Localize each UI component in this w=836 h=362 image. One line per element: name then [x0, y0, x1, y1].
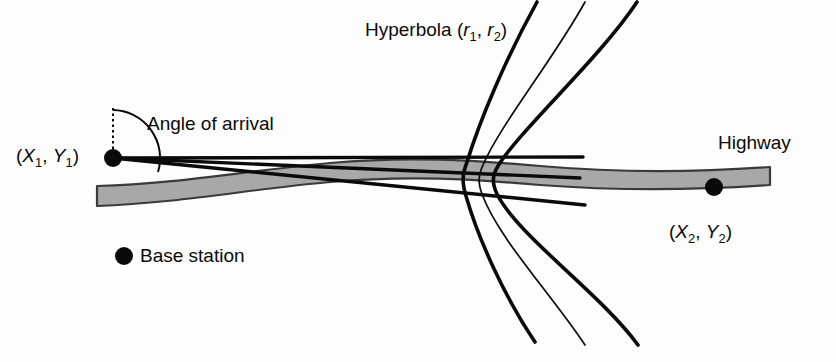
coord-1-x: X1	[22, 145, 42, 166]
coord-2-y-sub: 2	[718, 231, 725, 246]
legend-base-station-label: Base station	[140, 246, 245, 265]
hyperbola-label-r2-sub: 2	[494, 29, 501, 44]
hyperbola-label-name: Hyperbola	[365, 19, 452, 40]
hyperbola-label-r1-sub: 1	[470, 29, 477, 44]
coord-2-close-paren: )	[726, 221, 732, 242]
coord-2-x-base: X	[675, 221, 688, 242]
coord-1-comma: ,	[42, 145, 53, 166]
highway-label: Highway	[718, 133, 791, 152]
hyperbola-label-comma: ,	[477, 19, 488, 40]
coord-2-x: X2	[675, 221, 695, 242]
hyperbola-label: Hyperbola (r1, r2)	[365, 20, 507, 44]
angle-of-arrival-label: Angle of arrival	[147, 114, 274, 133]
coord-1-close-paren: )	[73, 145, 79, 166]
coord-2-y-base: Y	[706, 221, 719, 242]
coord-1-y-sub: 1	[65, 155, 72, 170]
base-station-2-coordinate-label: (X2, Y2)	[669, 222, 732, 246]
hyperbola-label-close-paren: )	[501, 19, 507, 40]
hyperbola-label-r1: r1	[463, 19, 477, 40]
aoa-line-upper	[113, 157, 583, 158]
coord-1-x-base: X	[22, 145, 35, 166]
diagram-canvas	[0, 0, 836, 362]
tdoa-aoa-positioning-diagram: Hyperbola (r1, r2) Angle of arrival (X1,…	[0, 0, 836, 362]
coord-2-comma: ,	[695, 221, 706, 242]
base-station-1-marker	[104, 149, 122, 167]
base-station-2-marker	[705, 178, 723, 196]
coord-1-y: Y1	[53, 145, 73, 166]
coord-2-y: Y2	[706, 221, 726, 242]
legend-base-station-marker	[115, 247, 133, 265]
coord-1-y-base: Y	[53, 145, 66, 166]
base-station-1-coordinate-label: (X1, Y1)	[16, 146, 79, 170]
hyperbola-label-r2: r2	[487, 19, 501, 40]
